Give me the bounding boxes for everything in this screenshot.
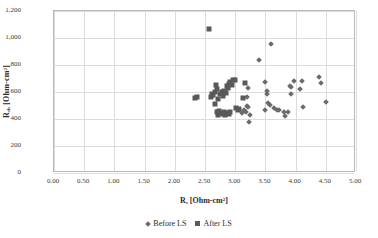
gridline-horizontal: [54, 65, 354, 66]
data-point-square: [233, 77, 238, 82]
data-point-diamond: [246, 120, 252, 126]
gridline-horizontal: [54, 11, 354, 12]
scatter-chart: Rsh [Ohm-cm2] 02004006008001,0001,200 0.…: [0, 0, 378, 238]
y-axis-tick-label: 1,200: [0, 10, 21, 17]
data-point-square: [224, 91, 229, 96]
gridline-vertical: [175, 11, 176, 171]
data-point-square: [209, 95, 214, 100]
data-point-square: [227, 109, 232, 114]
x-axis-title-unit-post: ]: [225, 196, 228, 205]
data-point-square: [241, 95, 246, 100]
data-point-square: [230, 83, 235, 88]
gridline-vertical: [145, 11, 146, 171]
gridline-vertical: [326, 11, 327, 171]
gridline-vertical: [54, 11, 55, 171]
data-point-diamond: [298, 86, 304, 92]
chart-legend: Before LS After LS: [0, 219, 378, 228]
data-point-diamond: [262, 79, 268, 85]
x-axis-tick-label: 5.00: [335, 178, 375, 185]
data-point-square: [206, 26, 211, 31]
gridline-vertical: [235, 11, 236, 171]
y-axis-tick-label: 1,000: [0, 37, 21, 44]
x-axis-title: Rs [Ohm-cm2]: [53, 196, 355, 205]
data-point-square: [194, 95, 199, 100]
gridline-vertical: [114, 11, 115, 171]
diamond-marker-icon: [145, 221, 151, 227]
plot-area: [53, 10, 355, 172]
x-axis-title-sub: s: [186, 200, 188, 205]
y-axis-tick-label: 800: [0, 64, 21, 71]
data-point-square: [242, 81, 247, 86]
data-point-diamond: [318, 80, 324, 86]
data-point-diamond: [257, 57, 263, 63]
data-point-square: [236, 107, 241, 112]
gridline-horizontal: [54, 119, 354, 120]
x-axis-title-sup: 2: [223, 197, 225, 202]
legend-label-after-ls: After LS: [203, 219, 231, 228]
data-point-diamond: [246, 85, 252, 91]
gridline-horizontal: [54, 173, 354, 174]
data-point-diamond: [323, 99, 329, 105]
gridline-horizontal: [54, 146, 354, 147]
x-axis-title-unit-pre: [Ohm-cm: [188, 196, 223, 205]
gridline-vertical: [356, 11, 357, 171]
data-point-diamond: [300, 104, 306, 110]
gridline-horizontal: [54, 38, 354, 39]
data-point-diamond: [299, 78, 305, 84]
data-point-diamond: [247, 112, 253, 118]
legend-item-after-ls[interactable]: After LS: [195, 219, 231, 228]
y-axis-tick-label: 400: [0, 118, 21, 125]
gridline-vertical: [296, 11, 297, 171]
data-point-square: [213, 102, 218, 107]
square-marker-icon: [195, 221, 200, 226]
legend-item-before-ls[interactable]: Before LS: [146, 219, 186, 228]
y-axis-tick-label: 200: [0, 145, 21, 152]
data-point-diamond: [263, 107, 269, 113]
data-point-diamond: [288, 84, 294, 90]
y-axis-tick-label: 600: [0, 91, 21, 98]
legend-label-before-ls: Before LS: [153, 219, 186, 228]
data-point-diamond: [269, 41, 275, 47]
data-point-square: [216, 112, 221, 117]
y-axis-title-sub: sh: [7, 106, 12, 111]
gridline-vertical: [205, 11, 206, 171]
y-axis-tick-label: 0: [0, 172, 21, 179]
gridline-vertical: [84, 11, 85, 171]
gridline-horizontal: [54, 92, 354, 93]
